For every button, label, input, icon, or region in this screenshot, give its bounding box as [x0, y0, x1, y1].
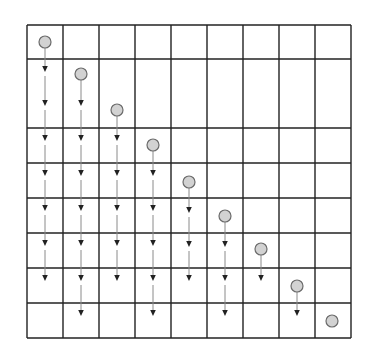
token-circle-icon	[183, 176, 195, 188]
token-circle-icon	[326, 315, 338, 327]
token-circle-icon	[291, 280, 303, 292]
token-circle-icon	[147, 139, 159, 151]
token-circle-icon	[255, 243, 267, 255]
token-circle-icon	[39, 36, 51, 48]
diagram-canvas	[0, 0, 369, 364]
token-circle-icon	[75, 68, 87, 80]
grid-diagram	[0, 0, 369, 364]
token-circle-icon	[111, 104, 123, 116]
token-circle-icon	[219, 210, 231, 222]
